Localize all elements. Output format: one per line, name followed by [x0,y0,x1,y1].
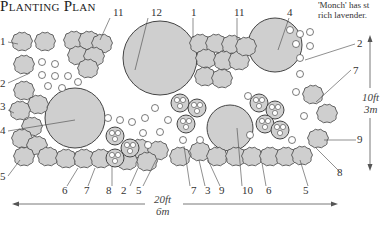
label-left-1: 1 [0,35,6,47]
arrow-right-icon [331,202,338,207]
height-m: 3m [363,103,378,115]
height-dimension: 10ft 3m [362,35,380,171]
label-bottom-5: 5 [136,184,142,196]
label-left-2: 2 [0,77,6,89]
label-bottom-8: 8 [106,184,112,196]
width-ft: 20ft [154,193,172,205]
label-left-5: 5 [0,170,6,182]
arrow-left-icon [12,202,19,207]
label-right-2: 2 [357,37,363,49]
label-top-11b: 11 [234,6,245,18]
arrow-up-icon [368,35,373,42]
arrow-down-icon [368,164,373,171]
label-top-4: 4 [287,6,293,18]
width-m: 6m [156,205,170,217]
label-right-9: 9 [357,133,363,145]
label-bottom-9: 9 [219,184,225,196]
label-top-12: 12 [151,6,162,18]
height-ft: 10ft [362,91,380,103]
label-bottom-6b: 6 [266,184,272,196]
label-bottom-7: 7 [84,184,90,196]
label-top-1: 1 [191,6,197,18]
label-bottom-6: 6 [62,184,68,196]
width-dimension: 20ft 6m [12,193,338,217]
planting-plan-diagram: 11 12 1 11 4 1 2 3 4 5 2 7 9 8 6 7 8 2 5… [0,0,382,234]
label-bottom-5b: 5 [303,184,309,196]
plant-12-large [123,21,197,95]
label-left-3: 3 [0,100,6,112]
label-right-8: 8 [337,166,343,178]
label-top-11: 11 [113,6,124,18]
label-bottom-3: 3 [205,184,211,196]
label-right-7: 7 [353,64,359,76]
label-bottom-2: 2 [121,184,127,196]
label-bottom-10: 10 [242,184,254,196]
label-left-4: 4 [0,124,6,136]
plant-4-large-left [45,88,105,148]
plant-10-large [207,105,253,151]
label-bottom-7b: 7 [191,184,197,196]
